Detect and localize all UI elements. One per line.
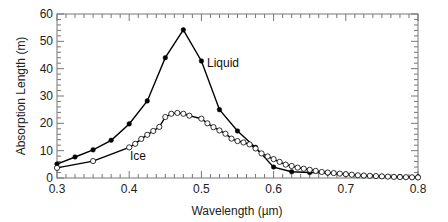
ice-data-point <box>313 168 318 173</box>
ice-data-point <box>349 172 354 177</box>
x-axis-label: Wavelength (µm) <box>191 204 282 218</box>
ice-data-point <box>415 175 420 180</box>
liquid-data-point <box>127 122 132 127</box>
ice-data-point <box>391 174 396 179</box>
ice-data-point <box>355 173 360 178</box>
ice-data-point <box>235 139 240 144</box>
liquid-series-label: Liquid <box>207 56 239 70</box>
ice-data-point <box>295 165 300 170</box>
ice-data-point <box>277 159 282 164</box>
ice-data-point <box>283 162 288 167</box>
ice-data-point <box>271 157 276 162</box>
y-tick-label: 20 <box>40 116 54 130</box>
liquid-data-point <box>109 138 114 143</box>
ice-data-point <box>199 116 204 121</box>
y-tick-label: 30 <box>40 89 54 103</box>
x-tick-label: 0.5 <box>193 182 210 196</box>
ice-data-point <box>259 151 264 156</box>
liquid-data-point <box>199 59 204 64</box>
ice-data-point <box>265 154 270 159</box>
x-tick-label: 0.6 <box>265 182 282 196</box>
ice-data-point <box>223 131 228 136</box>
ice-data-point <box>145 132 150 137</box>
liquid-data-point <box>145 99 150 104</box>
axis-tick-labels: 0.30.40.50.60.70.80102030405060 <box>40 7 427 196</box>
ice-data-point <box>211 125 216 130</box>
ice-data-point <box>301 166 306 171</box>
y-tick-label: 50 <box>40 34 54 48</box>
ice-data-point <box>253 146 258 151</box>
ice-data-point <box>163 114 168 119</box>
ice-data-point <box>325 170 330 175</box>
ice-series-label: Ice <box>130 149 146 163</box>
absorption-length-chart: 0.30.40.50.60.70.80102030405060 Waveleng… <box>0 0 448 222</box>
axis-ticks <box>57 14 418 178</box>
ice-data-point <box>181 111 186 116</box>
y-tick-label: 10 <box>40 144 54 158</box>
ice-data-point <box>241 140 246 145</box>
liquid-series <box>55 28 421 180</box>
ice-data-point <box>54 165 59 170</box>
ice-data-point <box>307 167 312 172</box>
ice-series <box>54 110 420 180</box>
ice-data-point <box>403 175 408 180</box>
ice-data-point <box>139 136 144 141</box>
ice-data-point <box>397 174 402 179</box>
ice-data-point <box>385 174 390 179</box>
liquid-data-point <box>289 169 294 174</box>
x-tick-label: 0.7 <box>337 182 354 196</box>
ice-data-point <box>289 163 294 168</box>
ice-data-point <box>247 142 252 147</box>
ice-data-point <box>409 175 414 180</box>
ice-data-point <box>205 121 210 126</box>
y-tick-label: 60 <box>40 7 54 21</box>
ice-data-point <box>343 172 348 177</box>
y-axis-label: Absorption Length (m) <box>14 37 28 156</box>
x-tick-label: 0.8 <box>410 182 427 196</box>
ice-data-point <box>157 124 162 129</box>
liquid-data-point <box>91 148 96 153</box>
plot-frame <box>57 14 418 178</box>
y-tick-label: 40 <box>40 62 54 76</box>
liquid-data-point <box>271 165 276 170</box>
x-tick-label: 0.4 <box>121 182 138 196</box>
ice-data-point <box>133 141 138 146</box>
ice-data-point <box>187 113 192 118</box>
y-tick-label: 0 <box>46 171 53 185</box>
data-series <box>54 28 420 181</box>
ice-data-point <box>229 136 234 141</box>
ice-data-point <box>331 170 336 175</box>
ice-data-point <box>91 158 96 163</box>
liquid-data-point <box>73 155 78 160</box>
ice-data-point <box>373 173 378 178</box>
liquid-data-point <box>181 28 186 33</box>
ice-data-point <box>217 128 222 133</box>
liquid-data-point <box>217 107 222 112</box>
ice-data-point <box>151 128 156 133</box>
ice-data-point <box>319 169 324 174</box>
ice-data-point <box>169 111 174 116</box>
ice-data-point <box>175 110 180 115</box>
ice-data-point <box>367 173 372 178</box>
ice-data-point <box>361 173 366 178</box>
liquid-data-point <box>235 129 240 134</box>
ice-data-point <box>337 171 342 176</box>
ice-data-point <box>379 174 384 179</box>
liquid-data-point <box>163 55 168 60</box>
